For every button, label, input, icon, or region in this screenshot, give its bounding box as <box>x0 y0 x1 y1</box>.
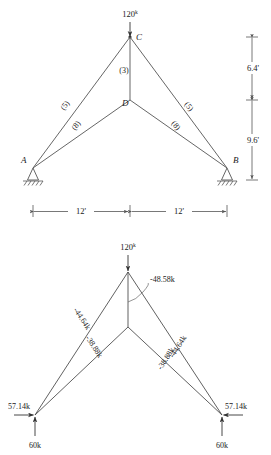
applied-load-label-upper: 120k <box>122 9 138 19</box>
reaction-horizontal-left: 57.14k <box>8 402 30 411</box>
member-label-8-right: (8) <box>170 119 183 132</box>
member-label-5-left: (5) <box>59 99 72 112</box>
reaction-group-right <box>222 415 243 436</box>
force-label-vertical: -48.58k <box>150 275 175 284</box>
reaction-vertical-right: 60k <box>216 441 228 450</box>
member-db <box>130 100 227 168</box>
force-label-lower-left: -38.88k <box>84 334 105 360</box>
dimension-12-right: 12' <box>174 206 185 216</box>
reaction-vertical-left: 60k <box>29 441 41 450</box>
node-a-label: A <box>20 155 27 165</box>
node-b-label: B <box>233 155 239 165</box>
pin-support-b <box>217 168 237 186</box>
member-da <box>33 100 130 168</box>
dimension-9-6: 9.6' <box>247 135 260 145</box>
reaction-group-left <box>14 415 35 436</box>
truss-geometry-diagram: 120k C D A B (3) (5) (8) (5) (8) <box>20 9 262 217</box>
figure-container: 120k C D A B (3) (5) (8) (5) (8) <box>0 0 271 455</box>
dimension-6-4: 6.4' <box>247 63 260 73</box>
applied-load-arrow-upper <box>128 22 131 39</box>
vertical-dimension-group: 6.4' 9.6' <box>244 37 262 180</box>
node-c-label: C <box>136 32 143 42</box>
fbd-member-lower-right <box>128 327 222 415</box>
fbd-member-upper-left <box>35 272 128 415</box>
dimension-12-left: 12' <box>76 206 87 216</box>
fbd-member-lower-left <box>35 327 128 415</box>
member-label-8-left: (8) <box>70 119 83 132</box>
node-d-label: D <box>121 98 129 108</box>
member-ca <box>33 37 130 168</box>
free-body-force-diagram: 120k -48.58k -44.64k -38.88k -44.64k -38 <box>8 242 247 450</box>
member-cb <box>130 37 227 168</box>
force-label-upper-left: -44.64k <box>72 306 93 332</box>
applied-load-label-lower: 120k <box>120 242 136 252</box>
horizontal-dimension-group: 12' 12' <box>33 205 227 217</box>
member-label-3: (3) <box>119 66 129 75</box>
reaction-horizontal-right: 57.14k <box>225 402 247 411</box>
fbd-members <box>35 272 222 415</box>
pin-support-a <box>23 168 43 186</box>
